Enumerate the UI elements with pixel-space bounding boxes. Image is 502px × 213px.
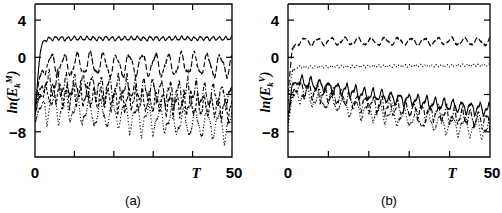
panel-a-series-group [35,36,232,145]
panel-caption-a: (a) [125,193,141,208]
x-axis-label: T [447,165,457,181]
y-ticks-right [484,20,490,132]
x-ticks-bottom [74,151,192,157]
panel-a-svg: 4 0 −8 0 50 T ln(EkM) (a) [0,0,251,213]
y-tick-label-minus8: −8 [262,124,279,141]
x-tick-label-50: 50 [226,164,243,181]
y-tick-label-4: 4 [271,12,280,29]
y-tick-label-4: 4 [18,12,27,29]
panel-b: 4 0 −8 0 50 T ln(EkV) (b) [251,0,502,213]
y-axis-label-prefix: ln(E [258,87,274,113]
panel-a-plot-area [35,4,232,157]
figure-container: 4 0 −8 0 50 T ln(EkM) (a) [0,0,502,213]
svg-text:ln(EkM): ln(EkM) [4,71,22,114]
panel-b-plot-area [288,4,490,157]
y-tick-label-0: 0 [18,49,26,66]
x-ticks-bottom [328,151,449,157]
y-axis-label: ln(EkV) [257,72,275,113]
x-ticks-top [328,4,449,10]
x-tick-label-0: 0 [284,164,292,181]
x-tick-label-50: 50 [484,164,501,181]
y-axis-label: ln(EkM) [4,71,22,114]
y-tick-label-minus8: −8 [9,124,26,141]
panel-b-series-group [288,37,490,140]
x-tick-label-0: 0 [31,164,39,181]
y-tick-label-0: 0 [271,49,279,66]
panel-caption-b: (b) [381,193,397,208]
series-line-k3-solid [288,75,490,118]
panel-a: 4 0 −8 0 50 T ln(EkM) (a) [0,0,251,213]
y-axis-label-prefix: ln(E [5,88,21,114]
x-ticks-top [74,4,192,10]
x-axis-label: T [191,165,201,181]
svg-text:ln(EkV): ln(EkV) [257,72,275,113]
panel-b-svg: 4 0 −8 0 50 T ln(EkV) (b) [251,0,502,213]
